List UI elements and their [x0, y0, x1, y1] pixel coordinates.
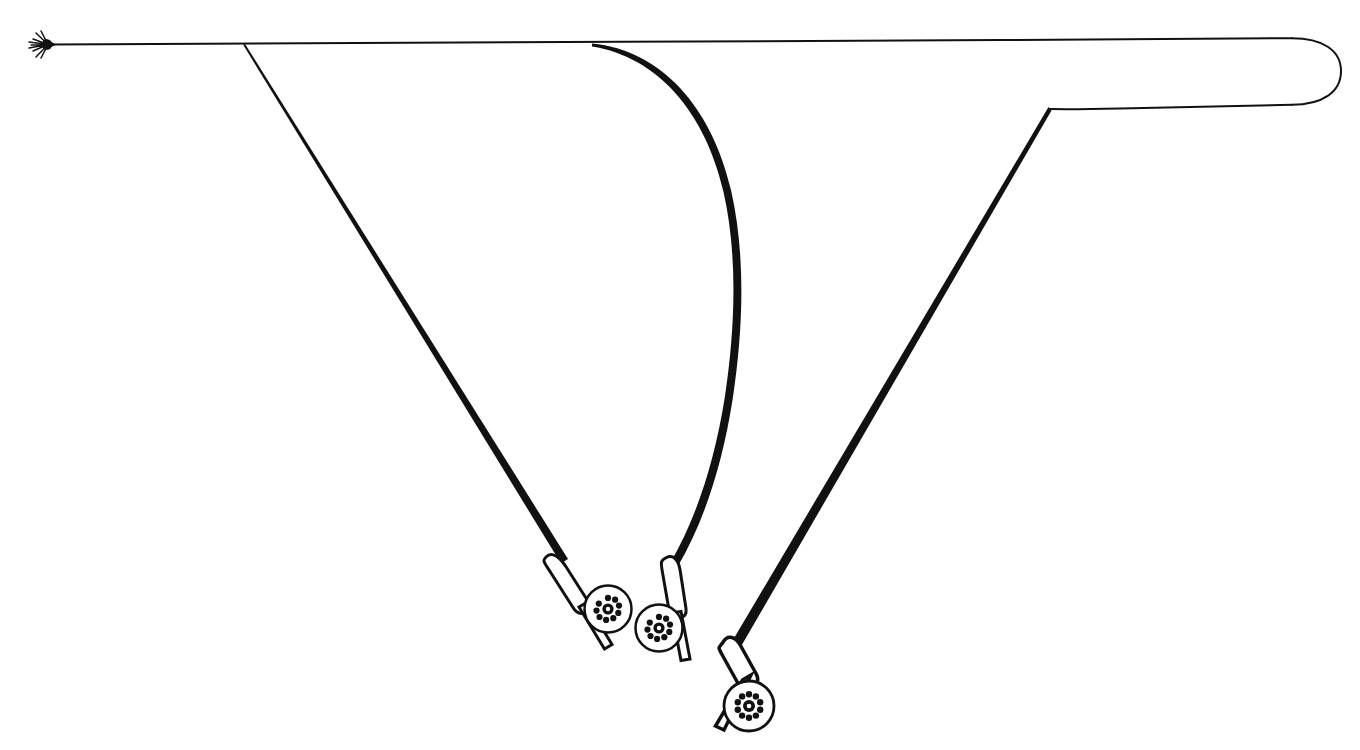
- reel-1[interactable]: [585, 586, 632, 633]
- fly-icon: [29, 31, 56, 58]
- rod-3-blank: [727, 107, 1052, 655]
- fly-line-loop-tip: [1292, 38, 1341, 105]
- rod-1-blank: [243, 44, 568, 563]
- rod-1[interactable]: [243, 44, 632, 649]
- rod-2[interactable]: [592, 43, 741, 660]
- rod-3[interactable]: [716, 107, 1052, 731]
- reel-2[interactable]: [636, 605, 683, 652]
- fly-cast-diagram: [0, 0, 1360, 750]
- fly-line-lower-leg: [1050, 105, 1292, 109]
- figure-root: [0, 0, 1360, 750]
- rod-2-blank: [592, 43, 741, 566]
- fly-line-upper-leg: [52, 38, 1292, 44]
- reel-3[interactable]: [724, 681, 774, 731]
